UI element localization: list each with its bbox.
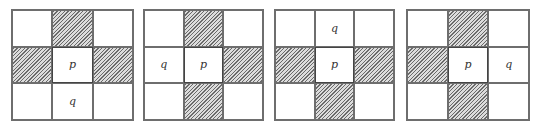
hatched-cell: [448, 10, 489, 47]
hatched-cell: [448, 83, 489, 120]
cell: [12, 83, 52, 120]
neighborhood-grid-3: q p: [274, 9, 395, 121]
hatched-cell: [12, 47, 52, 84]
neighborhood-grid-4: p q: [406, 9, 530, 121]
cell: [354, 10, 394, 47]
cell: [144, 83, 184, 120]
center-cell-p: p: [52, 47, 92, 84]
cell: [488, 83, 529, 120]
neighborhood-grid-2: q p: [143, 9, 264, 121]
hatched-cell: [354, 47, 394, 84]
hatched-cell: [223, 47, 263, 84]
cell: [407, 10, 448, 47]
neighborhood-grid-1: p q: [11, 9, 134, 121]
hatched-cell: [407, 47, 448, 84]
cell: [488, 10, 529, 47]
hatched-cell: [275, 47, 315, 84]
hatched-cell: [184, 10, 224, 47]
center-cell-p: p: [315, 47, 355, 84]
cell: [223, 83, 263, 120]
neighbor-cell-q: q: [315, 10, 355, 47]
cell: [12, 10, 52, 47]
neighbor-cell-q: q: [52, 83, 92, 120]
cell: [223, 10, 263, 47]
hatched-cell: [184, 83, 224, 120]
center-cell-p: p: [184, 47, 224, 84]
hatched-cell: [52, 10, 92, 47]
center-cell-p: p: [448, 47, 489, 84]
cell: [275, 10, 315, 47]
hatched-cell: [93, 47, 133, 84]
cell: [407, 83, 448, 120]
neighbor-cell-q: q: [144, 47, 184, 84]
cell: [354, 83, 394, 120]
cell: [144, 10, 184, 47]
cell: [275, 83, 315, 120]
hatched-cell: [315, 83, 355, 120]
cell: [93, 10, 133, 47]
cell: [93, 83, 133, 120]
neighbor-cell-q: q: [488, 47, 529, 84]
